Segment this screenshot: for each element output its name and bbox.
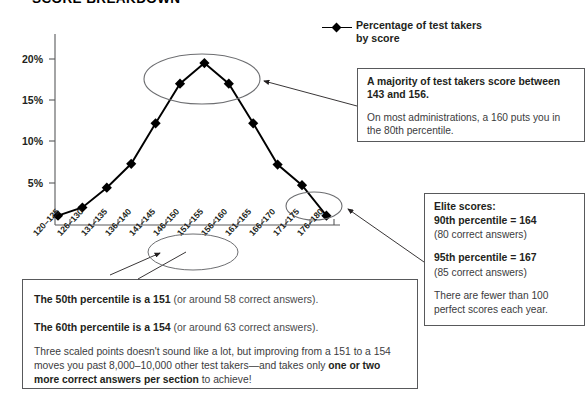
spacer (434, 280, 576, 289)
callout-elite-line1-bold: 90th percentile = 164 (434, 214, 576, 228)
connector-percentile-stem (138, 252, 186, 279)
callout-elite-heading: Elite scores: (434, 200, 576, 214)
callout-majority: A majority of test takers score between … (357, 68, 585, 142)
y-axis-label-20: 20% (9, 53, 43, 65)
data-series-line (58, 63, 326, 216)
y-axis-label-15: 15% (9, 94, 43, 106)
percentile-body: Three scaled points doesn't sound like a… (34, 345, 406, 388)
callout-majority-heading: A majority of test takers score between … (367, 75, 576, 102)
spacer (367, 102, 576, 111)
score-distribution-chart: 20% 15% 10% 5% 120–125 126–130 131–135 1… (0, 0, 360, 240)
percentile-60-rest: (or around 63 correct answers). (171, 322, 319, 333)
percentile-50-rest: (or around 58 correct answers). (171, 294, 319, 305)
callout-elite-scores: Elite scores: 90th percentile = 164 (80 … (424, 193, 585, 326)
legend-label: Percentage of test takers by score (356, 19, 486, 45)
percentile-line-50: The 50th percentile is a 151 (or around … (34, 289, 406, 307)
connector-percentile (110, 253, 160, 275)
percentile-50-bold: The 50th percentile is a 151 (34, 293, 171, 305)
line-diamond-marker-icon (322, 22, 352, 34)
chart-legend: Percentage of test takers by score (322, 19, 486, 45)
y-axis-label-5: 5% (9, 177, 43, 189)
score-breakdown-infographic: SCORE BREAKDOWN (0, 0, 588, 406)
callout-elite-line2-sub: (85 correct answers) (434, 266, 576, 280)
percentile-60-bold: The 60th percentile is a 154 (34, 321, 171, 333)
percentile-line-60: The 60th percentile is a 154 (or around … (34, 317, 406, 335)
callout-elite-line1-sub: (80 correct answers) (434, 228, 576, 242)
y-axis-label-10: 10% (9, 135, 43, 147)
callout-elite-line2-bold: 95th percentile = 167 (434, 251, 576, 265)
percentile-body-part2: to achieve! (199, 374, 252, 385)
callout-percentiles: The 50th percentile is a 151 (or around … (22, 279, 418, 389)
spacer (434, 242, 576, 251)
callout-elite-footer: There are fewer than 100 perfect scores … (434, 289, 576, 317)
callout-majority-body: On most administrations, a 160 puts you … (367, 111, 576, 138)
